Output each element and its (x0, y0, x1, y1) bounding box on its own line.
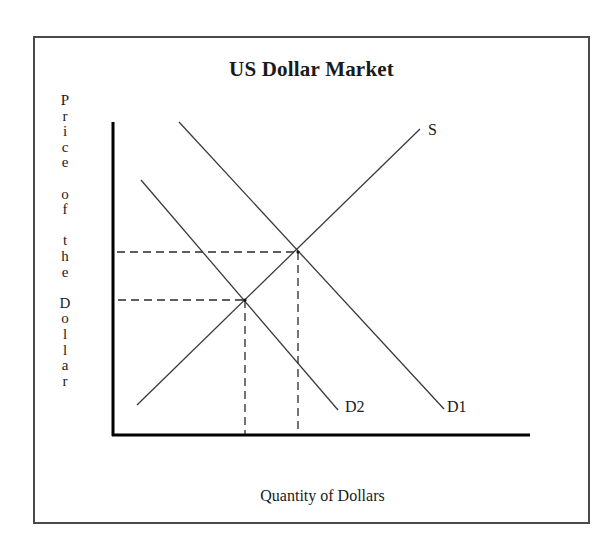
diagram-canvas: US Dollar Market Price of the Dollar Qua… (0, 0, 615, 548)
equilibrium-point-d1 (296, 250, 299, 253)
demand-curve-d2 (141, 180, 338, 410)
demand-curve-d1 (179, 122, 444, 409)
diagram-plot (0, 0, 615, 548)
supply-curve-s (137, 129, 420, 405)
curve-label-d2: D2 (345, 398, 365, 416)
curve-label-s: S (428, 121, 437, 139)
equilibrium-guides (117, 252, 298, 434)
equilibrium-point-d2 (243, 298, 246, 301)
curve-label-d1: D1 (447, 398, 467, 416)
curves (137, 122, 444, 410)
